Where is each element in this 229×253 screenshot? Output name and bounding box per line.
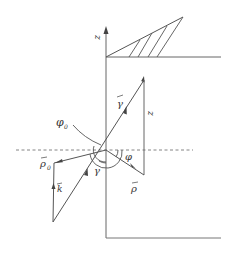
z-axis-arrow-icon — [104, 26, 109, 34]
z-axis-label: z — [93, 34, 103, 40]
wedge-hypotenuse — [106, 17, 183, 57]
gamma-vec-label: γ — [117, 95, 123, 109]
k-label: k — [57, 183, 62, 194]
wedge-hatching — [129, 17, 183, 57]
svg-text:z: z — [146, 110, 156, 116]
svg-text:k: k — [57, 184, 62, 194]
svg-text:γ: γ — [94, 165, 100, 176]
svg-text:0: 0 — [64, 123, 68, 130]
rho0-arrow-icon — [55, 159, 63, 163]
svg-text:ρ: ρ — [130, 183, 137, 194]
phi0-label: φ 0 — [56, 116, 68, 130]
phi-label: φ — [125, 151, 132, 162]
phi0-leader-curve — [73, 125, 101, 145]
svg-text:0: 0 — [47, 164, 51, 171]
svg-text:φ: φ — [56, 116, 64, 129]
rho-label: ρ — [130, 182, 138, 194]
phi-angle-arc — [116, 150, 118, 157]
svg-text:ρ: ρ — [39, 158, 46, 169]
k-arrow-icon — [52, 183, 56, 189]
z-vec-label: z — [146, 110, 156, 116]
svg-text:γ: γ — [117, 98, 123, 109]
gamma-mid-arrow-icon — [123, 106, 127, 115]
rho0-label: ρ 0 — [39, 157, 51, 171]
vector-diagram: z γ z φ 0 φ — [0, 0, 229, 253]
svg-text:φ: φ — [125, 151, 132, 162]
k-vector — [53, 163, 54, 222]
gamma-angle-label: γ — [94, 165, 100, 176]
